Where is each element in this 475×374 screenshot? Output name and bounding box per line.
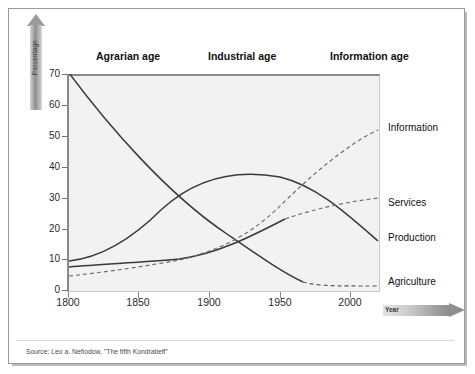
- x-tick-1900: 1900: [189, 296, 229, 308]
- era-heading-agrarian: Agrarian age: [96, 50, 160, 62]
- x-axis-label: Year: [385, 306, 399, 313]
- era-heading-information: Information age: [330, 50, 409, 62]
- legend-item-production: Production: [388, 232, 436, 243]
- y-tick-0: 0: [38, 284, 60, 295]
- x-tick-1800: 1800: [48, 296, 88, 308]
- arrow-right-icon: [449, 303, 465, 317]
- curve-services: [69, 219, 285, 267]
- y-tick-10: 10: [38, 253, 60, 264]
- legend-item-information: Information: [388, 122, 438, 133]
- x-tick-1950: 1950: [260, 296, 300, 308]
- y-tick-30: 30: [38, 192, 60, 203]
- percentage-axis-arrow: Percentage: [27, 14, 45, 110]
- legend-item-services: Services: [388, 197, 426, 208]
- curve-agriculture-tail: [303, 282, 378, 286]
- chart-page: Percentage Agrarian age Industrial age I…: [0, 0, 475, 374]
- source-divider: [16, 340, 454, 341]
- year-axis-arrow: Year: [383, 303, 465, 318]
- y-tick-70: 70: [38, 68, 60, 79]
- y-tick-20: 20: [38, 223, 60, 234]
- curve-services-tail: [285, 198, 378, 219]
- legend-item-agriculture: Agriculture: [388, 276, 436, 287]
- y-axis-label: Percentage: [31, 32, 38, 84]
- source-caption: Source: Leo a. Nefiodow, "The fifth Kond…: [26, 348, 168, 355]
- era-heading-industrial: Industrial age: [208, 50, 276, 62]
- x-tick-1850: 1850: [118, 296, 158, 308]
- y-tick-50: 50: [38, 130, 60, 141]
- x-tick-2000: 2000: [330, 296, 370, 308]
- y-tick-60: 60: [38, 99, 60, 110]
- plot-area: [67, 74, 380, 292]
- chart-curves: [67, 74, 380, 292]
- y-tick-40: 40: [38, 161, 60, 172]
